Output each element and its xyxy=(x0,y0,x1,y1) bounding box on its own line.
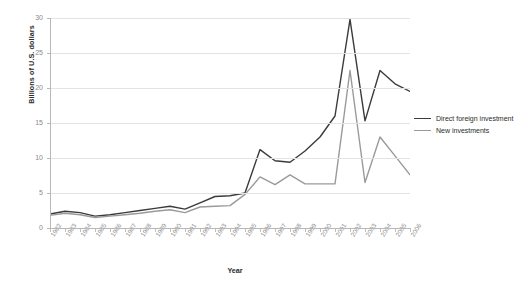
y-axis-line xyxy=(50,18,51,229)
x-tick-mark xyxy=(50,229,51,232)
x-tick-mark xyxy=(275,229,276,232)
gridline xyxy=(50,193,410,194)
y-tick-label: 15 xyxy=(17,119,43,126)
plot-area xyxy=(50,18,410,228)
x-tick-mark xyxy=(110,229,111,232)
x-tick-mark xyxy=(170,229,171,232)
line-chart: Billions of U.S. dollars Year 0510152025… xyxy=(0,0,528,288)
x-tick-mark xyxy=(95,229,96,232)
x-tick-mark xyxy=(380,229,381,232)
x-tick-mark xyxy=(155,229,156,232)
x-tick-mark xyxy=(125,229,126,232)
gridline xyxy=(50,53,410,54)
x-tick-mark xyxy=(335,229,336,232)
x-tick-mark xyxy=(185,229,186,232)
x-tick-mark xyxy=(395,229,396,232)
x-tick-mark xyxy=(290,229,291,232)
x-tick-mark xyxy=(80,229,81,232)
x-axis-title: Year xyxy=(0,266,470,275)
gridline xyxy=(50,88,410,89)
y-tick-label: 30 xyxy=(17,14,43,21)
x-tick-mark xyxy=(305,229,306,232)
y-tick-label: 10 xyxy=(17,154,43,161)
legend-line-icon xyxy=(414,130,431,131)
legend-label: New investments xyxy=(436,127,489,134)
x-tick-mark xyxy=(410,229,411,232)
x-tick-mark xyxy=(200,229,201,232)
legend-item[interactable]: New investments xyxy=(414,124,513,136)
x-tick-mark xyxy=(350,229,351,232)
legend-label: Direct foreign investment xyxy=(436,115,513,122)
x-tick-mark xyxy=(140,229,141,232)
y-tick-label: 5 xyxy=(17,189,43,196)
chart-legend: Direct foreign investmentNew investments xyxy=(414,112,513,136)
x-tick-label: 2006 xyxy=(409,222,422,238)
legend-item[interactable]: Direct foreign investment xyxy=(414,112,513,124)
gridline xyxy=(50,158,410,159)
x-tick-mark xyxy=(365,229,366,232)
y-tick-label: 25 xyxy=(17,49,43,56)
gridline xyxy=(50,18,410,19)
x-tick-mark xyxy=(230,229,231,232)
x-tick-mark xyxy=(215,229,216,232)
x-tick-mark xyxy=(260,229,261,232)
x-axis-line xyxy=(50,228,411,229)
y-tick-label: 20 xyxy=(17,84,43,91)
x-tick-mark xyxy=(320,229,321,232)
x-tick-mark xyxy=(65,229,66,232)
x-tick-mark xyxy=(245,229,246,232)
y-tick-label: 0 xyxy=(17,224,43,231)
gridline xyxy=(50,123,410,124)
legend-line-icon xyxy=(414,118,431,119)
